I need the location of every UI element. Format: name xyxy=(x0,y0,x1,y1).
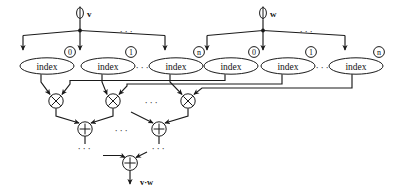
ellipsis-v-fanout: ··· xyxy=(120,26,135,37)
index-subscript-w1: 1 xyxy=(309,48,313,57)
index-node-w0[interactable]: index 0 xyxy=(204,47,259,75)
index-node-v1[interactable]: index 1 xyxy=(81,47,136,75)
index-subscript-wn: n xyxy=(377,48,381,57)
multiply-node-m0[interactable] xyxy=(49,94,63,108)
wire-m0-to-a0 xyxy=(56,108,79,123)
multiply-node-m1[interactable] xyxy=(106,94,120,108)
wire-left-to-final-add xyxy=(103,156,125,158)
index-node-wn[interactable]: index n xyxy=(329,47,384,75)
add-node-a0[interactable] xyxy=(78,122,92,136)
output-label: v·w xyxy=(140,177,154,187)
index-subscript-v0: 0 xyxy=(68,48,72,57)
input-label-v: v xyxy=(87,9,92,19)
wire-mn-to-a1 xyxy=(165,108,188,123)
fanout-v: ··· xyxy=(23,20,165,51)
index-node-w0-label: index xyxy=(220,62,241,72)
ellipsis-add-row: ··· xyxy=(115,125,130,136)
index-node-vn-label: index xyxy=(165,62,186,72)
ellipsis-multiply-row: ··· xyxy=(145,97,160,108)
fanout-w: ··· xyxy=(207,20,345,51)
index-node-wn-label: index xyxy=(345,62,366,72)
input-label-w: w xyxy=(270,9,277,19)
input-node-w[interactable]: w xyxy=(260,6,277,19)
index-node-v1-label: index xyxy=(97,62,118,72)
input-node-v[interactable]: v xyxy=(77,6,92,19)
index-node-w1-label: index xyxy=(277,62,298,72)
ellipsis-a0-down: ··· xyxy=(78,143,93,154)
wire-right-to-final-add xyxy=(136,152,147,158)
index-node-v0[interactable]: index 0 xyxy=(20,47,75,75)
diagram-canvas: v ··· w ··· xyxy=(0,0,398,194)
index-subscript-w0: 0 xyxy=(252,48,256,57)
ellipsis-w-index-row: ··· xyxy=(316,62,331,73)
wire-v1-to-m1 xyxy=(102,74,107,94)
wire-w1-to-m1 xyxy=(119,74,282,94)
index-subscript-vn: n xyxy=(197,48,201,57)
wire-partial-to-a1 xyxy=(131,112,153,123)
index-node-v0-label: index xyxy=(36,62,57,72)
multiply-node-mn[interactable] xyxy=(181,94,195,108)
dataflow-graph: v ··· w ··· xyxy=(0,0,398,194)
wire-v0-to-m0 xyxy=(41,74,50,94)
index-node-w1[interactable]: index 1 xyxy=(261,47,316,75)
wire-m1-to-a0 xyxy=(91,108,113,123)
ellipsis-v-index-row: ··· xyxy=(136,62,151,73)
ellipsis-a1-down: ··· xyxy=(152,143,167,154)
ellipsis-w-fanout: ··· xyxy=(300,26,315,37)
index-node-vn[interactable]: index n xyxy=(149,47,204,75)
add-node-a1[interactable] xyxy=(152,122,166,136)
index-subscript-v1: 1 xyxy=(129,48,133,57)
add-node-final[interactable] xyxy=(123,156,138,171)
